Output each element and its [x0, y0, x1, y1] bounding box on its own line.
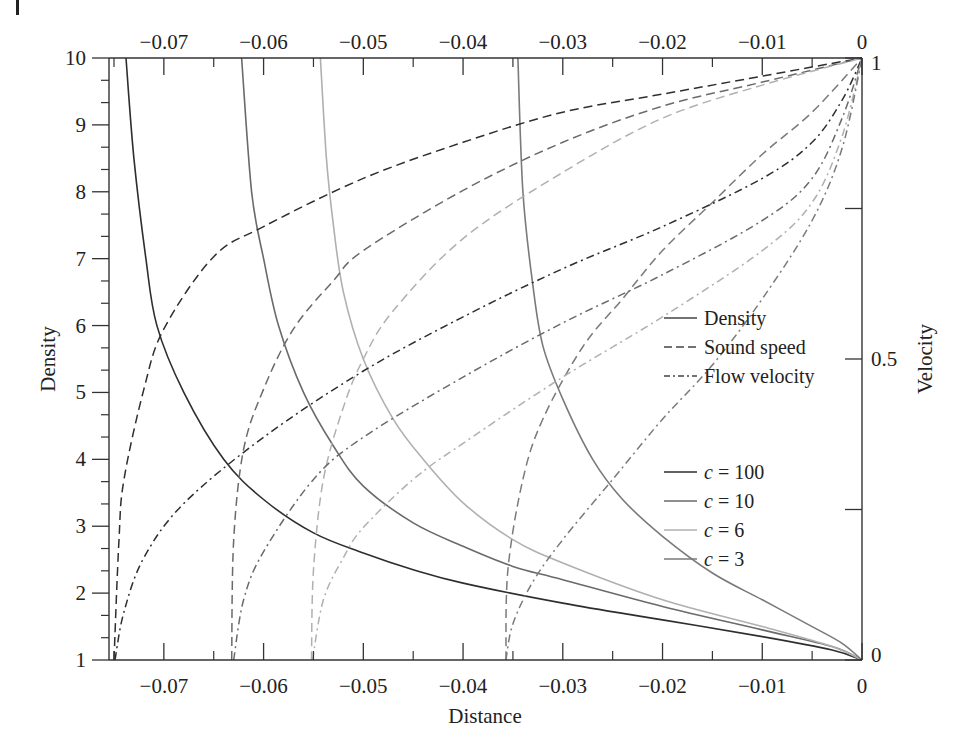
density-velocity-chart: −0.07−0.07−0.06−0.06−0.05−0.05−0.04−0.04… [0, 0, 970, 750]
legend-case-label: c = 10 [704, 490, 754, 512]
legend-case-label: c = 3 [704, 548, 744, 570]
x-tick-label-bottom: −0.06 [239, 674, 288, 698]
y-tick-label: 6 [76, 314, 87, 338]
x-tick-label-top: −0.05 [339, 30, 388, 54]
y-tick-label: 2 [76, 581, 87, 605]
series-density-line [320, 58, 862, 660]
x-tick-label-top: −0.06 [239, 30, 288, 54]
plot-curves [114, 58, 862, 660]
y2-axis-title: Velocity [913, 324, 937, 394]
y-tick-label: 3 [76, 514, 87, 538]
x-tick-label-bottom: −0.04 [439, 674, 488, 698]
x-tick-label-bottom: −0.02 [638, 674, 687, 698]
series-sound-speed-line [312, 58, 863, 660]
series-sound-speed-line [114, 58, 862, 660]
x-tick-label-top: −0.03 [538, 30, 587, 54]
x-tick-label-top: −0.01 [738, 30, 787, 54]
legend: DensitySound speedFlow velocityc = 100c … [664, 307, 815, 570]
series-sound-speed-line [506, 58, 862, 660]
y-tick-label: 7 [76, 247, 87, 271]
x-tick-label-top: −0.07 [140, 30, 189, 54]
y-tick-label: 10 [65, 46, 86, 70]
y-tick-label: 9 [76, 113, 87, 137]
y-tick-label: 8 [76, 180, 87, 204]
x-tick-label-top: −0.02 [638, 30, 687, 54]
x-tick-label-bottom: −0.07 [140, 674, 189, 698]
y2-tick-label: 0 [871, 643, 882, 667]
series-flow-velocity-line [506, 58, 862, 660]
x-tick-label-bottom: −0.01 [738, 674, 787, 698]
series-density-line [242, 58, 862, 660]
series-flow-velocity-line [115, 58, 862, 660]
axes: −0.07−0.07−0.06−0.06−0.05−0.05−0.04−0.04… [65, 30, 897, 698]
y-tick-label: 4 [76, 447, 87, 471]
legend-case-label: c = 6 [704, 519, 744, 541]
x-tick-label-bottom: −0.03 [538, 674, 587, 698]
legend-label: Flow velocity [704, 365, 815, 388]
x-tick-label-bottom: −0.05 [339, 674, 388, 698]
series-flow-velocity-line [313, 58, 863, 660]
x-axis-title: Distance [448, 704, 521, 728]
legend-label: Density [704, 307, 766, 330]
legend-case-label: c = 100 [704, 461, 764, 483]
y-axis-title: Density [36, 326, 60, 392]
y2-tick-label: 1 [871, 51, 882, 75]
x-tick-label-bottom: 0 [857, 674, 868, 698]
y2-tick-label: 0.5 [871, 347, 897, 371]
y-tick-label: 1 [76, 648, 87, 672]
series-density-line [518, 58, 862, 660]
legend-label: Sound speed [704, 336, 806, 359]
x-tick-label-top: −0.04 [439, 30, 488, 54]
y-tick-label: 5 [76, 380, 87, 404]
x-tick-label-top: 0 [857, 30, 868, 54]
